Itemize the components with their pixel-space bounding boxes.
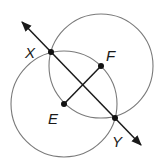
- geometry-diagram: X F E Y: [0, 0, 164, 166]
- point-x: [48, 49, 54, 55]
- point-f: [98, 63, 104, 69]
- label-x: X: [24, 44, 36, 61]
- label-f: F: [106, 47, 116, 64]
- line-xy: [22, 22, 141, 145]
- label-e: E: [48, 110, 59, 127]
- label-y: Y: [112, 133, 123, 150]
- point-e: [61, 101, 67, 107]
- point-y: [112, 115, 118, 121]
